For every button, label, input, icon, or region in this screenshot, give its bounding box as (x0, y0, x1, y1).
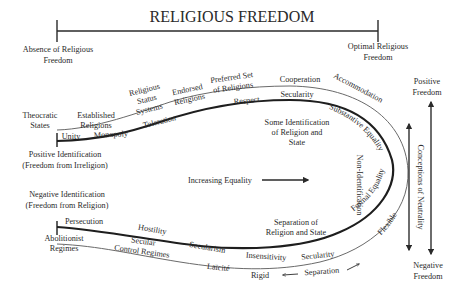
cooperation-label: Cooperation (280, 75, 320, 84)
separation-left-arrow (283, 274, 298, 275)
separation-right-arrow (347, 264, 359, 270)
monopoly-label: Monopoly (94, 129, 129, 140)
flexible-text: Flexible (376, 210, 399, 236)
separation-religion-state-label-1: Separation of (274, 218, 318, 227)
some-identification-label-1: Some Identification (265, 118, 330, 127)
absence-label-line2: Freedom (43, 56, 73, 65)
religious-freedom-diagram: RELIGIOUS FREEDOM Absence of Religious F… (0, 0, 464, 292)
hostility-label: Hostility (138, 223, 169, 237)
negative-freedom-label-2: Freedom (413, 272, 443, 281)
theocratic-states-label: Theocratic (22, 111, 57, 120)
formal-equality-label: Formal Equality (349, 167, 386, 214)
respect-label: Respect (233, 95, 260, 107)
separation-label: Separation (304, 266, 340, 277)
established-religions-label-2: Religions (80, 121, 111, 130)
abolitionist-regimes-label-1: Abolitionist (44, 234, 84, 243)
theocratic-states-label-2: States (30, 121, 50, 130)
some-identification-label-2: of Religion and (272, 128, 323, 137)
religious-status-systems-label: Religious Status Systems (128, 82, 165, 118)
insensitivity-label: Insensitivity (246, 251, 288, 263)
optimal-label-line1: Optimal Religious (348, 42, 408, 51)
negative-identification-label-1: Negative Identification (29, 190, 105, 199)
abolitionist-regimes-label-2: Regimes (50, 244, 79, 253)
positive-identification-label-2: (Freedom from Irreligion) (22, 161, 108, 170)
secularity-upper-label: Secularity (280, 90, 314, 99)
substantive-equality-text: Substantive Equality (328, 102, 386, 153)
unity-label: Unity (62, 132, 82, 141)
some-identification-label-3: State (289, 138, 306, 147)
endorsed-religions-label: Endorsed Religions (171, 82, 206, 107)
separation-religion-state-label-2: Religion and State (266, 228, 327, 237)
flexible-label: Flexible (376, 210, 399, 236)
optimal-label-line2: Freedom (363, 53, 393, 62)
rigid-label: Rigid (251, 271, 269, 280)
absence-label-line1: Absence of Religious (23, 45, 94, 54)
substantive-equality-label: Substantive Equality (328, 102, 386, 153)
increasing-equality-label: Increasing Equality (188, 176, 253, 185)
secularity-lower-label: Secularity (301, 249, 336, 262)
positive-freedom-label-2: Freedom (412, 88, 442, 97)
established-religions-label: Established (77, 111, 115, 120)
laicite-label: Laïcité (206, 262, 230, 273)
secularism-label: Secularism (189, 240, 227, 255)
formal-equality-text: Formal Equality (349, 167, 386, 214)
diagram-title: RELIGIOUS FREEDOM (150, 8, 315, 25)
preferred-set-label: Preferred Set of Religions (210, 70, 256, 95)
persecution-label: Persecution (65, 217, 103, 226)
conceptions-of-neutrality-label: Conceptions of Neutrality (416, 144, 425, 230)
accommodation-label: Accommodation (332, 71, 384, 105)
secular-control-regimes-label: Secular Control Regimes (114, 233, 172, 260)
negative-freedom-label-1: Negative (413, 261, 443, 270)
positive-identification-label-1: Positive Identification (29, 150, 102, 159)
negative-identification-label-2: (Freedom from Religion) (26, 201, 109, 210)
toleration-label: Toleration (142, 113, 177, 130)
positive-freedom-label-1: Positive (414, 77, 441, 86)
